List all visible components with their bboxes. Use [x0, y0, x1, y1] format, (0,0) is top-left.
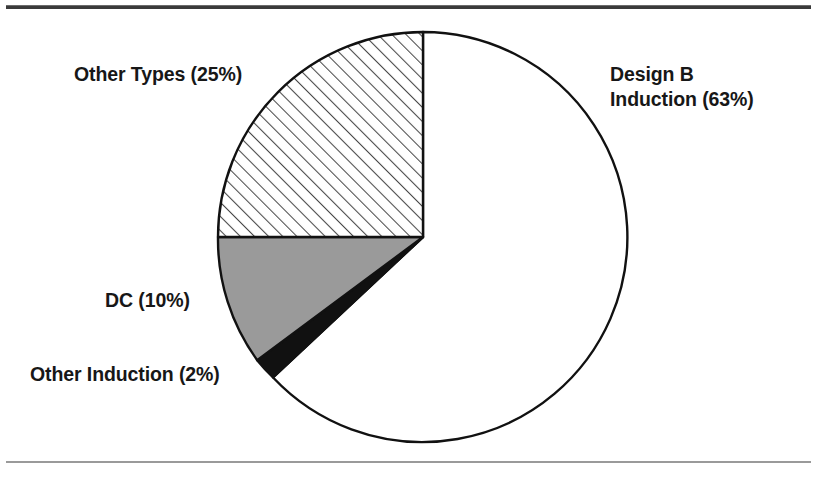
top-horizontal-rule [6, 5, 811, 9]
pie-chart-figure: Other Types (25%) Design B Induction (63… [0, 0, 818, 477]
pie-slice-other-types [218, 32, 423, 237]
pie-chart-graphic [218, 31, 628, 443]
pie-label-other-types: Other Types (25%) [74, 62, 242, 87]
pie-label-design-b-induction: Design B Induction (63%) [610, 62, 754, 112]
pie-label-other-induction: Other Induction (2%) [30, 362, 220, 387]
pie-label-dc: DC (10%) [105, 288, 190, 313]
bottom-horizontal-rule [6, 461, 811, 463]
pie-svg [218, 31, 628, 443]
